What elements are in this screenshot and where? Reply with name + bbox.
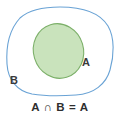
- venn-diagram-figure: A B A ∩ B = A: [0, 0, 120, 118]
- set-b-label: B: [10, 75, 18, 86]
- set-a-label: A: [82, 57, 90, 68]
- diagram-caption: A ∩ B = A: [0, 101, 120, 113]
